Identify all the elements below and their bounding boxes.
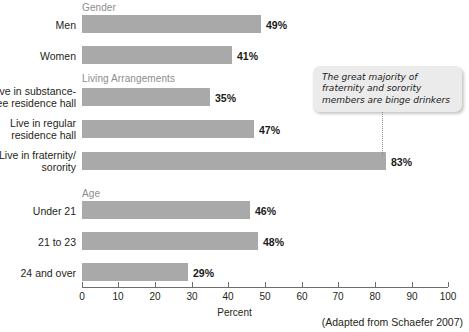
callout-annotation-box: The great majority of fraternity and sor… bbox=[313, 66, 462, 112]
x-axis-tick-90 bbox=[412, 282, 413, 287]
x-axis-tick-10 bbox=[118, 282, 119, 287]
callout-line-3: members are binge drinkers bbox=[322, 95, 454, 106]
x-axis-tick-80 bbox=[375, 282, 376, 287]
group-heading-gender: Gender bbox=[82, 2, 116, 13]
x-axis-tick-label-100: 100 bbox=[440, 291, 457, 302]
x-axis-line bbox=[82, 287, 448, 288]
bar-value-women: 41% bbox=[237, 50, 258, 62]
bar-value-men: 49% bbox=[266, 19, 287, 31]
x-axis-tick-label-60: 60 bbox=[296, 291, 307, 302]
x-axis-tick-30 bbox=[192, 282, 193, 287]
category-label-men: Men bbox=[56, 20, 76, 32]
source-attribution: (Adapted from Schaefer 2007) bbox=[322, 316, 463, 328]
category-label-fraternity: Live in fraternity/ sorority bbox=[0, 150, 76, 173]
x-axis-tick-60 bbox=[302, 282, 303, 287]
x-axis-tick-0 bbox=[82, 282, 83, 287]
bar-men bbox=[82, 15, 261, 33]
x-axis-tick-label-80: 80 bbox=[369, 291, 380, 302]
category-label-women: Women bbox=[40, 51, 76, 63]
x-axis-tick-100 bbox=[448, 282, 449, 287]
bar-regular-residence-hall bbox=[82, 120, 254, 138]
category-label-substance-free-line1: Live in substance- bbox=[0, 86, 76, 98]
x-axis-tick-70 bbox=[338, 282, 339, 287]
callout-leader-dotted-line bbox=[382, 112, 383, 155]
bar-value-21-to-23: 48% bbox=[263, 236, 284, 248]
bar-under-21 bbox=[82, 201, 250, 219]
x-axis-tick-20 bbox=[155, 282, 156, 287]
category-label-under-21: Under 21 bbox=[33, 206, 76, 218]
category-label-regular-hall-line2: residence hall bbox=[10, 130, 76, 142]
group-heading-living-arrangements: Living Arrangements bbox=[82, 73, 175, 84]
x-axis-tick-50 bbox=[265, 282, 266, 287]
bar-value-under-21: 46% bbox=[255, 205, 276, 217]
category-label-24-and-over: 24 and over bbox=[21, 268, 76, 280]
x-axis-tick-label-70: 70 bbox=[332, 291, 343, 302]
group-heading-age: Age bbox=[82, 188, 100, 199]
category-label-substance-free: Live in substance- free residence hall bbox=[0, 86, 76, 109]
x-axis-tick-label-10: 10 bbox=[112, 291, 123, 302]
bar-value-substance-free: 35% bbox=[215, 92, 236, 104]
x-axis-tick-label-40: 40 bbox=[222, 291, 233, 302]
bar-value-regular-hall: 47% bbox=[259, 124, 280, 136]
callout-line-1: The great majority of bbox=[322, 72, 454, 83]
category-label-21-to-23: 21 to 23 bbox=[38, 237, 76, 249]
bar-value-24-and-over: 29% bbox=[193, 267, 214, 279]
bar-women bbox=[82, 46, 232, 64]
category-label-substance-free-line2: free residence hall bbox=[0, 98, 76, 110]
bar-fraternity-sorority bbox=[82, 152, 386, 170]
bar-substance-free-residence-hall bbox=[82, 88, 210, 106]
category-label-fraternity-line1: Live in fraternity/ bbox=[0, 150, 76, 162]
x-axis-tick-label-30: 30 bbox=[186, 291, 197, 302]
category-label-fraternity-line2: sorority bbox=[0, 162, 76, 174]
callout-annotation-text: The great majority of fraternity and sor… bbox=[322, 72, 454, 106]
bar-value-fraternity: 83% bbox=[391, 156, 412, 168]
category-label-regular-hall: Live in regular residence hall bbox=[10, 118, 76, 141]
x-axis-tick-label-0: 0 bbox=[79, 291, 85, 302]
bar-21-to-23 bbox=[82, 232, 258, 250]
bar-24-and-over bbox=[82, 263, 188, 281]
category-label-regular-hall-line1: Live in regular bbox=[10, 118, 76, 130]
x-axis-tick-label-50: 50 bbox=[259, 291, 270, 302]
x-axis-tick-40 bbox=[228, 282, 229, 287]
x-axis-tick-label-20: 20 bbox=[149, 291, 160, 302]
x-axis-tick-label-90: 90 bbox=[406, 291, 417, 302]
binge-drinking-bar-chart: Gender Men 49% Women 41% Living Arrangem… bbox=[0, 0, 469, 332]
callout-line-2: fraternity and sorority bbox=[322, 83, 454, 94]
